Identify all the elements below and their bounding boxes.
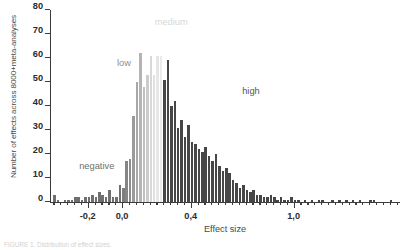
region-annotation-medium: medium [155, 17, 188, 27]
histogram-bar [139, 53, 142, 202]
y-axis-tick-label: 0 [38, 193, 43, 203]
x-axis-minor-tick [369, 202, 370, 205]
histogram-bar [235, 183, 238, 202]
histogram-bar [218, 166, 221, 202]
x-axis-minor-tick [177, 202, 178, 205]
x-axis-minor-tick [184, 202, 185, 205]
histogram-bar [88, 197, 91, 202]
histogram-bar [239, 188, 242, 202]
x-axis-minor-tick [397, 202, 398, 205]
x-axis-tick-label: 1,0 [287, 211, 300, 221]
region-annotation-negative: negative [79, 161, 114, 171]
y-axis-label: Number of effects across 8000+meta-analy… [9, 0, 18, 202]
histogram-bar [119, 185, 122, 202]
histogram-bar [270, 195, 273, 202]
histogram-bar [163, 80, 166, 202]
histogram-bar [373, 200, 376, 202]
x-axis-minor-tick [355, 202, 356, 205]
x-axis-minor-tick [321, 202, 322, 205]
histogram-bar [246, 190, 249, 202]
x-axis-minor-tick [280, 202, 281, 205]
histogram-bar [191, 142, 194, 202]
histogram-bar [101, 195, 104, 202]
histogram-bar [259, 195, 262, 202]
y-axis-tick [45, 105, 50, 106]
x-axis-minor-tick [300, 202, 301, 205]
histogram-bar [122, 188, 125, 202]
histogram-bar [71, 200, 74, 202]
histogram-bar [84, 197, 87, 202]
x-axis-minor-tick [156, 202, 157, 205]
histogram-bar [352, 200, 355, 202]
x-axis-minor-tick [225, 202, 226, 205]
histogram-bar [204, 147, 207, 202]
histogram-bar [91, 195, 94, 202]
histogram-bar [98, 192, 101, 202]
x-axis-minor-tick [60, 202, 61, 205]
histogram-bar [115, 197, 118, 202]
histogram-bar [222, 171, 225, 202]
x-axis-minor-tick [163, 202, 164, 205]
histogram-bar [146, 75, 149, 202]
histogram-bar [321, 200, 324, 202]
x-axis-minor-tick [273, 202, 274, 205]
x-axis-minor-tick [266, 202, 267, 205]
histogram-bar [143, 87, 146, 202]
histogram-bar [283, 200, 286, 202]
x-axis-tick [122, 202, 123, 208]
histogram-bar [211, 161, 214, 202]
histogram-bar [266, 197, 269, 202]
x-axis-tick-label: 0,4 [184, 211, 197, 221]
x-axis-minor-tick [170, 202, 171, 205]
figure-container: Number of effects across 8000+meta-analy… [0, 0, 411, 250]
histogram-bar [201, 152, 204, 202]
histogram-bar [276, 200, 279, 202]
y-axis-tick-label: 70 [33, 25, 43, 35]
histogram-bar [249, 192, 252, 202]
x-axis-minor-tick [390, 202, 391, 205]
histogram-bar [369, 200, 372, 202]
histogram-bar [187, 125, 190, 202]
x-axis-tick-label: 0,0 [116, 211, 129, 221]
x-axis-minor-tick [232, 202, 233, 205]
x-axis-minor-tick [252, 202, 253, 205]
histogram-bar [67, 200, 70, 202]
histogram-bar [311, 200, 314, 202]
histogram-bar [184, 137, 187, 202]
histogram-bar [153, 75, 156, 202]
x-axis-minor-tick [198, 202, 199, 205]
histogram-bar [74, 197, 77, 202]
x-axis-minor-tick [239, 202, 240, 205]
y-axis-tick [45, 57, 50, 58]
histogram-bar [287, 200, 290, 202]
histogram-bar [304, 200, 307, 202]
histogram-bar [125, 161, 128, 202]
y-axis-tick-label: 60 [33, 49, 43, 59]
histogram-bar [215, 154, 218, 202]
x-axis-minor-tick [74, 202, 75, 205]
y-axis-tick-label: 80 [33, 1, 43, 11]
x-axis-minor-tick [150, 202, 151, 205]
x-axis-minor-tick [342, 202, 343, 205]
histogram-bar [112, 197, 115, 202]
x-axis-minor-tick [129, 202, 130, 205]
histogram-bar [180, 120, 183, 202]
y-axis-tick-label: 10 [33, 169, 43, 179]
x-axis-minor-tick [218, 202, 219, 205]
histogram-bar [170, 106, 173, 202]
region-annotation-low: low [117, 58, 131, 68]
y-axis-tick-label: 30 [33, 121, 43, 131]
y-axis-tick-label: 40 [33, 97, 43, 107]
y-axis-tick [45, 177, 50, 178]
histogram-bar [150, 56, 153, 202]
x-axis-tick-label: -0,2 [80, 211, 96, 221]
histogram-bar [177, 128, 180, 202]
x-axis-minor-tick [362, 202, 363, 205]
x-axis-minor-tick [108, 202, 109, 205]
y-axis-tick [45, 33, 50, 34]
histogram-bar [390, 200, 393, 202]
histogram-bar [167, 60, 170, 202]
x-axis-minor-tick [246, 202, 247, 205]
histogram-bar [108, 190, 111, 202]
histogram-bar [256, 195, 259, 202]
